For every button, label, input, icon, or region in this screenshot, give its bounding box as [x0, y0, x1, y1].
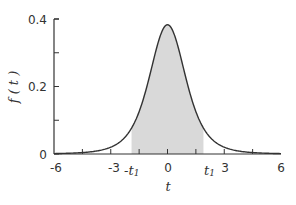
- x-ticks: [82, 149, 252, 154]
- y-tick-label-0.2: 0.2: [28, 80, 47, 94]
- x-tick-label-3: 3: [221, 161, 229, 175]
- x-tick-label-0: 0: [164, 161, 172, 175]
- x-tick-label--3: -3: [108, 161, 120, 175]
- y-tick-label-0: 0: [39, 148, 47, 162]
- x-tick-label-6: 6: [277, 161, 285, 175]
- x-tick-label--6: -6: [50, 161, 62, 175]
- shaded-area: [132, 25, 204, 154]
- x-axis-title: t: [165, 179, 171, 194]
- pos-t1-label: t1: [204, 163, 215, 178]
- y-ticks: [54, 19, 59, 154]
- y-tick-label-0.4: 0.4: [28, 13, 47, 27]
- chart: 0.4 0.2 0 -6 -3 0 3 6 -t1 t1 t f ( t ): [0, 0, 296, 205]
- y-axis-title: f ( t ): [6, 71, 21, 105]
- neg-t1-label: -t1: [124, 163, 139, 178]
